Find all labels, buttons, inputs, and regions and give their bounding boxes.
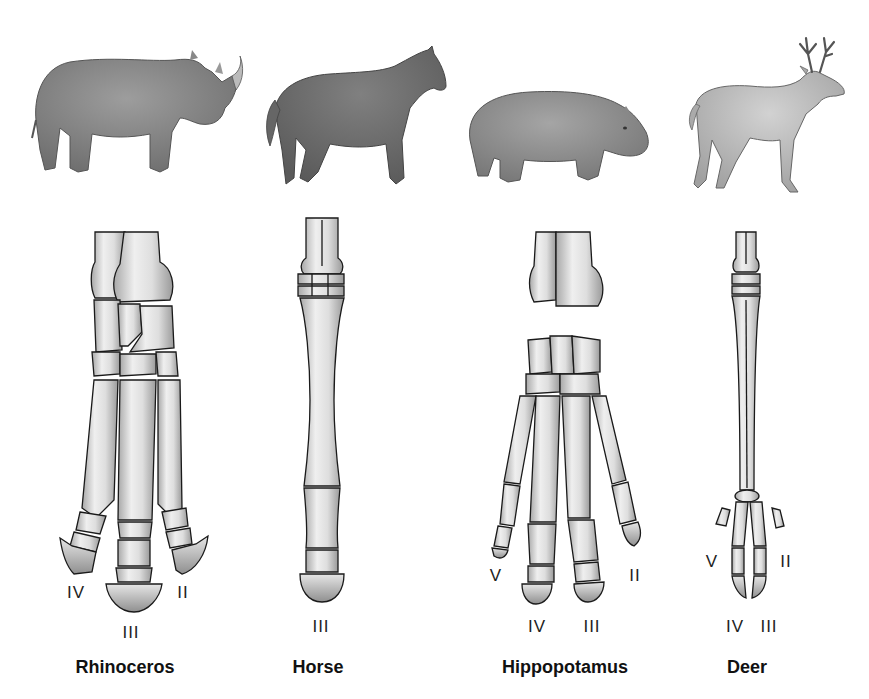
hippo-digit-iii-label: III [583, 618, 600, 635]
rhino-digit-ii-label: II [177, 584, 188, 601]
deer-digit-v-label: V [706, 553, 718, 570]
deer-icon [689, 38, 844, 192]
hippopotamus-foot-bones [492, 232, 641, 604]
animal-name-deer: Deer [727, 658, 767, 676]
deer-foot-bones [716, 232, 784, 598]
animal-name-hippopotamus: Hippopotamus [502, 658, 628, 676]
horse-foot-bones [298, 218, 344, 602]
diagram-canvas [0, 0, 869, 699]
hippo-digit-iv-label: IV [528, 618, 546, 635]
hippopotamus-icon [470, 92, 649, 183]
horse-icon [267, 46, 446, 184]
animal-name-rhinoceros: Rhinoceros [75, 658, 174, 676]
deer-digit-ii-label: II [780, 553, 791, 570]
deer-digit-iv-label: IV [726, 618, 744, 635]
horse-digit-iii-label: III [312, 618, 329, 635]
rhino-digit-iii-label: III [122, 624, 139, 641]
hippo-digit-ii-label: II [629, 567, 640, 584]
animal-name-horse: Horse [292, 658, 343, 676]
hippo-digit-v-label: V [490, 567, 502, 584]
rhinoceros-foot-bones [60, 232, 208, 612]
rhino-digit-iv-label: IV [67, 584, 85, 601]
rhinoceros-icon [32, 50, 243, 172]
deer-digit-iii-label: III [760, 618, 777, 635]
